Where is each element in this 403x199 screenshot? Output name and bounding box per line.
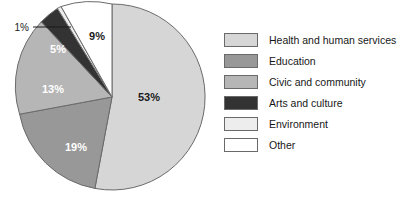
slice-value-health-and-human-services: 53% [138,91,160,103]
legend-swatch-civic-and-community [224,75,258,89]
legend-swatch-environment [224,117,258,131]
legend-label-health-and-human-services: Health and human services [269,34,396,46]
legend-label-education: Education [269,55,316,67]
legend-label-other: Other [269,139,295,151]
legend-item-health-and-human-services[interactable]: Health and human services [224,31,399,48]
slice-value-civic-and-community: 13% [42,83,64,95]
pie-chart-figure: 53% 19% 13% 5% 1% 9% Health and human se… [0,0,403,199]
legend-item-education[interactable]: Education [224,52,399,69]
legend-item-environment[interactable]: Environment [224,115,399,132]
legend-item-arts-and-culture[interactable]: Arts and culture [224,94,399,111]
legend-swatch-arts-and-culture [224,96,258,110]
legend-item-other[interactable]: Other [224,136,399,153]
pie-chart-plot: 53% 19% 13% 5% 1% 9% [0,0,212,199]
legend-item-civic-and-community[interactable]: Civic and community [224,73,399,90]
slice-value-education: 19% [65,141,87,153]
legend: Health and human services Education Civi… [224,31,399,153]
legend-swatch-education [224,54,258,68]
pie-svg: 53% 19% 13% 5% 1% 9% [0,0,212,199]
legend-swatch-other [224,138,258,152]
legend-swatch-health-and-human-services [224,33,258,47]
slice-value-arts-and-culture: 5% [50,43,66,55]
legend-label-environment: Environment [269,118,328,130]
slice-value-other: 9% [89,30,105,42]
legend-label-arts-and-culture: Arts and culture [269,97,343,109]
legend-label-civic-and-community: Civic and community [269,76,366,88]
slice-value-environment: 1% [15,22,30,33]
